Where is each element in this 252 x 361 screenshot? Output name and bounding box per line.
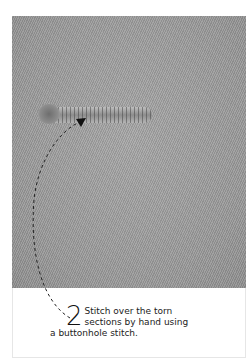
caption-line-2: sections by hand using [66, 317, 236, 328]
step-number: 2 [66, 306, 83, 326]
step-caption: 2 Stitch over the torn sections by hand … [66, 306, 236, 339]
caption-line-1: Stitch over the torn [66, 306, 236, 317]
caption-line-3: a buttonhole stitch. [50, 328, 236, 339]
